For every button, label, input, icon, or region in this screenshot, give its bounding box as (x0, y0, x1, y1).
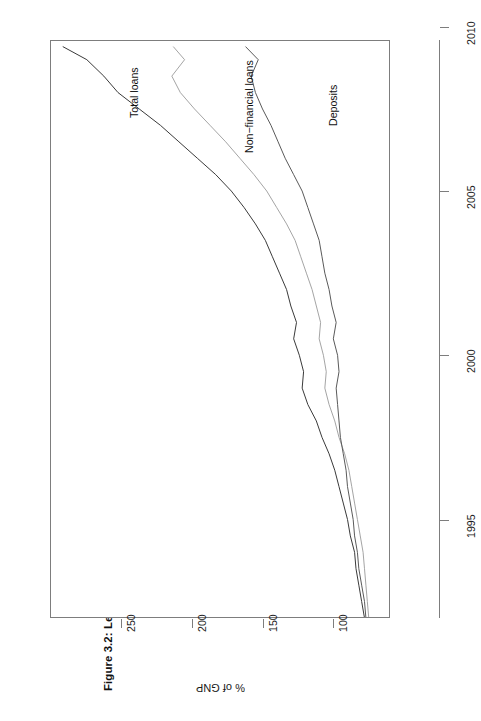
x-axis-tick-label: 2000 (465, 350, 477, 374)
x-axis-tick (440, 191, 449, 192)
y-axis-tick-label: 100 (337, 614, 349, 632)
y-axis-tick (263, 619, 264, 628)
x-axis-tick-label: 2005 (465, 186, 477, 210)
y-axis-title: % of GNP (196, 682, 245, 694)
x-axis-tick-label: 2010 (465, 21, 477, 45)
series-label-non-financial-loans: Non−financial loans (243, 60, 255, 153)
x-axis-tick-label: 1995 (465, 514, 477, 538)
y-axis-tick-label: 200 (196, 614, 208, 632)
y-axis-tick (121, 619, 122, 628)
figure-page: Figure 3.2: Lending to the Private Secto… (0, 0, 481, 721)
plot-lines (51, 41, 389, 617)
y-axis-tick (192, 619, 193, 628)
x-axis-tick (440, 520, 449, 521)
y-axis-tick-label: 150 (267, 614, 279, 632)
x-axis-tick (440, 355, 449, 356)
series-line (63, 47, 365, 617)
y-axis-tick-label: 250 (125, 614, 137, 632)
y-axis-tick (333, 619, 334, 628)
x-axis-line (439, 40, 440, 618)
series-label-deposits: Deposits (327, 85, 339, 126)
series-line (172, 47, 369, 617)
series-line (246, 47, 366, 617)
plot-area (50, 40, 390, 618)
x-axis-tick (440, 27, 449, 28)
series-label-total-loans: Total loans (128, 67, 140, 118)
